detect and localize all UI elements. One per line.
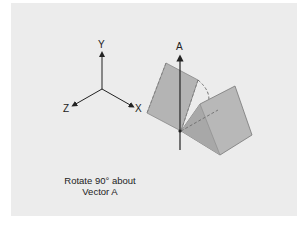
coordinate-axes: Y X Z [63, 39, 142, 114]
z-axis-arrow [74, 89, 102, 105]
caption-line-1: Rotate 90° about [50, 175, 150, 186]
caption: Rotate 90° about Vector A [50, 175, 150, 197]
pivot-point [178, 129, 181, 132]
caption-line-2: Vector A [50, 186, 150, 197]
rotation-diagram: Y X Z A [0, 0, 307, 228]
x-axis-arrow [102, 89, 132, 106]
vector-a-label: A [176, 41, 183, 52]
y-axis-label: Y [98, 39, 105, 50]
x-axis-label: X [135, 103, 142, 114]
z-axis-label: Z [63, 103, 69, 114]
